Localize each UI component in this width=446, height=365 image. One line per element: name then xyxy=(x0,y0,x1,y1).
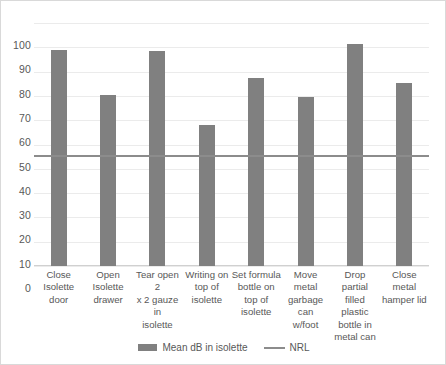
y-tick-label: 100 xyxy=(3,39,31,51)
legend-label: Mean dB in isolette xyxy=(162,342,247,353)
bar[interactable] xyxy=(248,78,264,266)
nrl-reference-line xyxy=(34,155,429,157)
x-tick-label: OpenIsolettedrawer xyxy=(83,269,132,306)
bar-slot xyxy=(83,23,132,266)
y-tick-label: 20 xyxy=(3,233,31,245)
bar[interactable] xyxy=(199,125,215,266)
bar-slot xyxy=(380,23,429,266)
chart-legend: Mean dB in isoletteNRL xyxy=(1,342,446,353)
y-tick-label: 60 xyxy=(3,136,31,148)
y-axis: 1009080706050403020100 xyxy=(1,23,31,266)
legend-item[interactable]: NRL xyxy=(264,342,310,353)
bar-slot xyxy=(34,23,83,266)
bar-slot xyxy=(182,23,231,266)
bars-layer xyxy=(34,23,429,266)
y-tick-label: 50 xyxy=(3,161,31,173)
x-tick-label: Close metalhamper lid xyxy=(380,269,429,306)
legend-item[interactable]: Mean dB in isolette xyxy=(138,342,247,353)
x-tick-label: CloseIsolettedoor xyxy=(34,269,83,306)
bar[interactable] xyxy=(51,50,67,266)
legend-line-swatch-icon xyxy=(264,347,285,349)
x-axis-labels: CloseIsolettedoorOpenIsolettedrawerTear … xyxy=(34,269,429,331)
bar[interactable] xyxy=(100,95,116,266)
x-tick-label: Drop partialfilled plasticbottle inmetal… xyxy=(330,269,379,343)
bar-slot xyxy=(232,23,281,266)
y-tick-label: 90 xyxy=(3,63,31,75)
y-tick-label: 0 xyxy=(3,282,31,294)
bar-slot xyxy=(133,23,182,266)
y-tick-label: 30 xyxy=(3,209,31,221)
plot-area xyxy=(34,23,429,266)
bar-slot xyxy=(281,23,330,266)
y-tick-label: 40 xyxy=(3,185,31,197)
x-tick-label: Move metalgarbage canw/foot xyxy=(281,269,330,331)
bar[interactable] xyxy=(396,83,412,266)
x-tick-label: Set formulabottle ontop ofisolette xyxy=(232,269,281,319)
bar-slot xyxy=(330,23,379,266)
legend-label: NRL xyxy=(290,342,310,353)
legend-bar-swatch-icon xyxy=(138,344,157,351)
bar[interactable] xyxy=(298,97,314,266)
y-tick-label: 10 xyxy=(3,258,31,270)
y-tick-label: 70 xyxy=(3,112,31,124)
x-tick-label: Writing ontop ofisolette xyxy=(182,269,231,306)
x-tick-label: Tear open 2x 2 gauze inisolette xyxy=(133,269,182,331)
bar[interactable] xyxy=(149,51,165,266)
y-tick-label: 80 xyxy=(3,88,31,100)
bar-chart: 1009080706050403020100 CloseIsolettedoor… xyxy=(0,0,446,365)
gridline-0 xyxy=(34,266,429,267)
